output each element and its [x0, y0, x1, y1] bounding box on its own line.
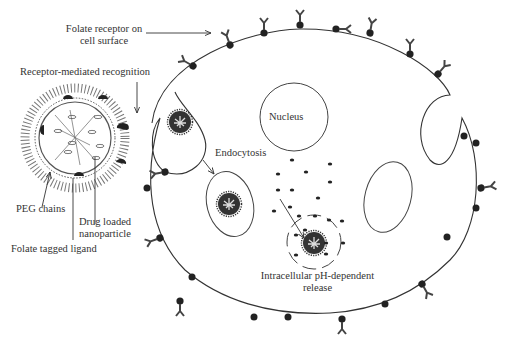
annotation-arrows: [42, 33, 304, 240]
label-endocytosis: Endocytosis: [215, 147, 266, 159]
label-release: Intracellular pH-dependent release: [255, 270, 380, 294]
diagram-canvas: Folate receptor on cell surface Receptor…: [0, 0, 510, 348]
label-folate-ligand: Folate tagged ligand: [11, 243, 97, 255]
label-drug-loaded-line1: Drug loaded: [75, 216, 135, 228]
label-drug-loaded: Drug loaded nanoparticle: [75, 216, 135, 240]
peg-nanoparticle: [25, 88, 129, 188]
organelle: [356, 156, 419, 237]
endosome-2: [199, 166, 261, 242]
endosome-1: [168, 110, 193, 135]
label-folate-receptor: Folate receptor on cell surface: [64, 23, 144, 47]
label-peg-chains: PEG chains: [16, 203, 65, 215]
label-drug-loaded-line2: nanoparticle: [75, 228, 135, 240]
cell-diagram-svg: [0, 0, 510, 348]
label-release-line1: Intracellular pH-dependent: [255, 270, 380, 282]
label-nucleus: Nucleus: [269, 111, 303, 123]
label-folate-receptor-line1: Folate receptor on: [64, 23, 144, 35]
label-folate-receptor-line2: cell surface: [64, 35, 144, 47]
label-receptor-recognition: Receptor-mediated recognition: [20, 66, 150, 78]
label-release-line2: release: [255, 282, 380, 294]
